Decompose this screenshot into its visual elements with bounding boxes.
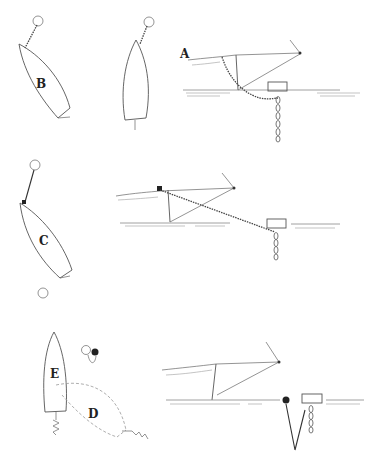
- stem: [236, 55, 238, 90]
- bowsprit-tip: [299, 52, 302, 55]
- mooring-buoy-icon: [33, 16, 43, 26]
- bobstay: [217, 362, 279, 395]
- label-a: A: [179, 47, 190, 61]
- bobstay: [170, 188, 234, 222]
- forestay: [222, 173, 234, 188]
- boat-hull: [123, 40, 148, 120]
- mooring-float: [267, 219, 286, 228]
- label-e: E: [50, 367, 59, 381]
- hull-sheer: [162, 362, 279, 370]
- pickup-buoy-icon: [92, 349, 99, 356]
- stern-buoy-icon: [38, 288, 48, 298]
- mooring-diagram: B A C: [0, 0, 382, 464]
- anchor-rode: [122, 431, 148, 439]
- panel-b: B: [19, 16, 70, 118]
- stem: [168, 190, 170, 222]
- panel-boat-straight: [123, 17, 154, 130]
- pickup-buoy-icon: [283, 397, 290, 404]
- panel-side-pickup: [162, 342, 364, 450]
- mooring-chain: [25, 25, 37, 48]
- mooring-buoy-icon: [144, 17, 154, 27]
- panel-a: A: [179, 40, 360, 142]
- panel-e-d: E D: [44, 332, 148, 439]
- stem: [212, 364, 216, 400]
- hull-sheer: [188, 53, 300, 60]
- v-rode: [286, 404, 305, 450]
- mooring-chain: [140, 26, 147, 44]
- label-b: B: [36, 77, 46, 91]
- label-d: D: [88, 407, 98, 421]
- panel-side-taut: [116, 173, 340, 260]
- label-c: C: [39, 234, 49, 248]
- mooring-chain: [222, 57, 278, 99]
- bobstay: [238, 54, 300, 90]
- mooring-line: [25, 170, 34, 202]
- mooring-buoy-icon: [82, 346, 91, 355]
- bow-cleat: [22, 200, 26, 204]
- mooring-float: [302, 394, 322, 403]
- hanging-chain: [276, 97, 280, 143]
- panel-c: C: [20, 160, 72, 298]
- pickup-line: [88, 355, 96, 363]
- forestay: [290, 40, 300, 53]
- forestay: [266, 342, 279, 362]
- hanging-chain: [274, 233, 278, 261]
- mooring-buoy-icon: [30, 160, 40, 170]
- hanging-chain: [309, 406, 313, 434]
- stern-anchor-rode: [53, 412, 59, 435]
